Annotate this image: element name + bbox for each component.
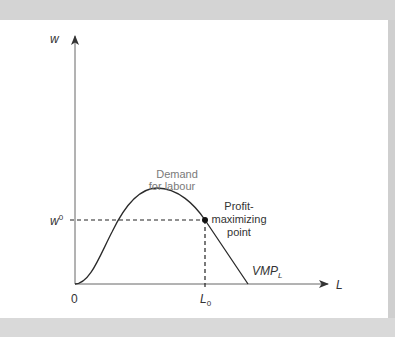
- wage-level-label: w0: [50, 213, 64, 228]
- vmp-curve: [75, 188, 248, 284]
- origin-label: 0: [71, 292, 78, 306]
- profit-annotation-line2: maximizing: [211, 213, 266, 225]
- profit-annotation-line3: point: [227, 226, 251, 238]
- profit-maximizing-point: [202, 217, 208, 223]
- labour-demand-diagram: w L 0 w0 L0 VMPL Demand for labour Profi…: [0, 0, 395, 337]
- labour-level-label: L0: [200, 292, 212, 308]
- x-axis-label: L: [336, 278, 343, 292]
- curve-label: VMPL: [252, 264, 282, 280]
- y-axis-label: w: [50, 32, 60, 46]
- demand-annotation-line1: Demand: [156, 168, 198, 180]
- demand-annotation-line2: for labour: [149, 180, 196, 192]
- profit-annotation-line1: Profit-: [224, 200, 254, 212]
